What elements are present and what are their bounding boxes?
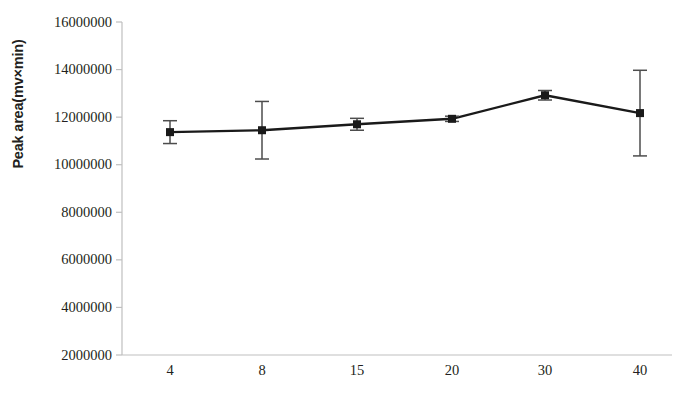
error-bars bbox=[163, 70, 647, 159]
chart-figure: Peak area(mv×min) 16000000 14000000 1200… bbox=[0, 0, 676, 415]
data-point-marker bbox=[541, 91, 549, 99]
series-line bbox=[170, 95, 640, 132]
data-point-marker bbox=[448, 115, 456, 123]
data-point-marker bbox=[166, 128, 174, 136]
data-point-markers bbox=[166, 91, 644, 136]
axes bbox=[116, 22, 672, 355]
plot-area bbox=[0, 0, 676, 415]
data-point-marker bbox=[258, 126, 266, 134]
data-point-marker bbox=[353, 120, 361, 128]
data-series bbox=[163, 70, 647, 159]
y-axis-ticks bbox=[116, 22, 122, 355]
data-point-marker bbox=[636, 109, 644, 117]
